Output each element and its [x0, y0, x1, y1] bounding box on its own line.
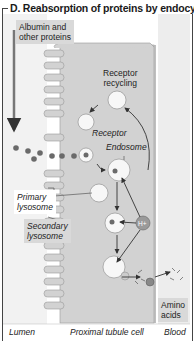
primary-lysosome-label: Primary lysosome — [14, 190, 56, 214]
amino-acids-line2: acids — [161, 310, 185, 320]
endosome-label: Endosome — [106, 142, 147, 152]
secondary-lysosome-line1: Secondary — [27, 221, 68, 231]
secondary-lysosome — [105, 213, 125, 233]
lumen-region — [3, 14, 47, 324]
secondary-lysosome-label: Secondary lysosome — [24, 219, 71, 243]
proximal-tubule-cell-label: Proximal tubule cell — [70, 327, 144, 337]
amino-acid-transporter — [146, 278, 154, 286]
albumin-label-line1: Albumin and — [19, 22, 71, 32]
receptor-recycling-label: Receptor recycling — [103, 68, 138, 88]
primary-lysosome-line1: Primary — [17, 192, 53, 202]
secondary-lysosome-line2: lysosome — [27, 231, 68, 241]
amino-acids-line1: Amino — [161, 300, 185, 310]
blood-label: Blood — [164, 327, 186, 337]
receptor-recycling-line2: recycling — [103, 78, 138, 88]
endosome — [108, 159, 130, 181]
amino-acids-label: Amino acids — [158, 298, 188, 322]
primary-lysosome — [90, 184, 108, 202]
receptor-label: Receptor — [92, 128, 127, 138]
endocytosis-diagram — [0, 0, 194, 342]
albumin-label-line2: other proteins — [19, 32, 71, 42]
figure-title: D. Reabsorption of proteins by endocytos… — [8, 2, 194, 14]
blood-region — [158, 14, 190, 324]
primary-lysosome-line2: lysosome — [17, 202, 53, 212]
receptor-recycling-line1: Receptor — [103, 68, 138, 78]
lumen-label: Lumen — [9, 327, 35, 337]
albumin-label: Albumin and other proteins — [16, 20, 74, 44]
proton-label: H+ — [138, 219, 147, 229]
recycling-vesicle — [108, 91, 126, 109]
